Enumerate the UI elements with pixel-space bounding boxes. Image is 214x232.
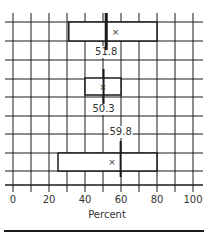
median-label: 51.8 [95, 46, 117, 57]
x-tick-label: 100 [183, 194, 202, 205]
x-tick-label: 0 [10, 194, 16, 205]
mean-marker-icon: × [112, 27, 120, 37]
x-axis: 020406080100 [10, 194, 203, 205]
mean-marker-icon: × [108, 157, 116, 167]
median-label: 50.3 [92, 103, 114, 114]
box-plot-chart: 51.8×50.3×59.8× 020406080100 Percent [0, 0, 214, 232]
x-tick-label: 80 [151, 194, 164, 205]
box-1: 51.8× [69, 13, 157, 58]
x-tick-label: 60 [115, 194, 128, 205]
median-label: 59.8 [110, 126, 132, 137]
mean-marker-icon: × [99, 82, 107, 92]
box-2: 50.3× [85, 69, 121, 115]
box-series: 51.8×50.3×59.8× [58, 13, 157, 177]
chart-canvas: 51.8×50.3×59.8× 020406080100 Percent [0, 0, 214, 232]
x-tick-label: 20 [43, 194, 56, 205]
x-axis-label: Percent [88, 209, 126, 220]
x-tick-label: 40 [79, 194, 92, 205]
